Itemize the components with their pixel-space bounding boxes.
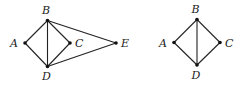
node-e <box>114 41 118 45</box>
node-label-a: A <box>9 37 18 50</box>
node-a <box>23 41 27 45</box>
node-a <box>172 41 176 45</box>
node-label-a: A <box>158 37 167 50</box>
node-b <box>46 19 50 23</box>
edge-a-d <box>25 43 48 67</box>
edge-c-d <box>197 43 220 66</box>
node-c <box>218 41 222 45</box>
edge-a-b <box>174 20 197 43</box>
node-label-c: C <box>225 37 234 50</box>
graph-diagram: ABCDE ABCD <box>0 0 251 86</box>
node-d <box>195 63 199 67</box>
node-label-b: B <box>41 4 50 17</box>
node-label-d: D <box>41 70 51 83</box>
edge-a-d <box>174 43 197 66</box>
node-c <box>68 41 72 45</box>
edge-b-c <box>197 20 220 43</box>
left-graph: ABCDE <box>9 4 129 83</box>
node-label-d: D <box>191 69 201 82</box>
node-label-c: C <box>75 37 84 50</box>
node-b <box>195 18 199 22</box>
node-label-b: B <box>191 3 200 16</box>
node-label-e: E <box>120 37 129 50</box>
node-d <box>46 65 50 69</box>
right-graph: ABCD <box>158 3 234 82</box>
edge-a-b <box>25 21 48 44</box>
